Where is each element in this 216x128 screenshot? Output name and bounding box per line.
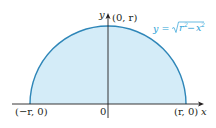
equation-label: y = r 2 − x 2 bbox=[152, 21, 205, 35]
svg-text:2: 2 bbox=[200, 21, 205, 28]
point-left-label: (−r, 0) bbox=[15, 106, 48, 117]
exponent-2: 2 bbox=[200, 21, 205, 28]
svg-text:−: − bbox=[187, 22, 195, 33]
point-right-label: (r, 0) bbox=[174, 106, 198, 117]
point-top-label: (0, r) bbox=[112, 12, 137, 23]
equation-lhs: y = bbox=[152, 23, 169, 34]
svg-text:y =: y = bbox=[152, 23, 169, 34]
origin-label: 0 bbox=[100, 106, 106, 117]
y-axis-label: y bbox=[98, 9, 105, 20]
x-axis-label: x bbox=[201, 106, 207, 117]
semicircle-diagram: y x 0 (−r, 0) (r, 0) (0, r) y = r 2 − x … bbox=[0, 0, 216, 128]
radicand-minus: − bbox=[187, 22, 195, 33]
